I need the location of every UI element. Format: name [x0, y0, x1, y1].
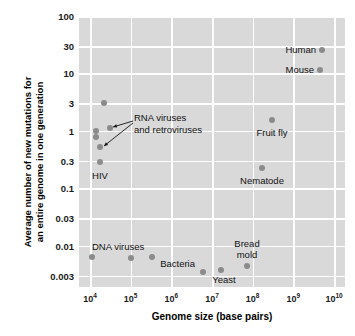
bread-mold-label-1: Bread	[234, 238, 259, 249]
yeast-label: Yeast	[212, 274, 235, 285]
x-axis-tick-label: 105	[124, 292, 138, 304]
rna-viruses-annotation-line-1: RNA viruses	[134, 112, 202, 124]
y-axis-title-line-1: Average number of new mutations for	[22, 77, 33, 248]
dna-viruses-label: DNA viruses	[92, 241, 144, 252]
fruit-fly-label: Fruit fly	[256, 127, 287, 138]
y-axis-title: Average number of new mutations for an e…	[22, 32, 46, 292]
mouse-label: Mouse	[285, 64, 314, 75]
y-axis-tick-label: 100	[0, 11, 74, 22]
hiv-label: HIV	[92, 170, 108, 181]
x-axis-tick-label: 107	[205, 292, 219, 304]
x-axis-tick-label: 1010	[325, 292, 342, 304]
bread-mold-label-2: mold	[237, 249, 258, 260]
x-axis-title: Genome size (base pairs)	[79, 311, 345, 322]
mutation-rate-scatter-figure: 1003010310.30.10.030.010.003 Genome size…	[0, 0, 355, 336]
y-axis-title-line-2: an entire genome in one generation	[34, 82, 45, 242]
x-axis-tick-label: 108	[246, 292, 260, 304]
bacteria-label: Bacteria	[160, 258, 195, 269]
x-axis-tick-label: 109	[287, 292, 301, 304]
x-axis-tick-label: 104	[83, 292, 97, 304]
x-axis-tick-label: 106	[165, 292, 179, 304]
nematode-label: Nematode	[240, 175, 284, 186]
rna-viruses-annotation: RNA virusesand retroviruses	[134, 112, 202, 135]
rna-viruses-annotation-line-2: and retroviruses	[134, 124, 202, 136]
human-label: Human	[285, 44, 316, 55]
